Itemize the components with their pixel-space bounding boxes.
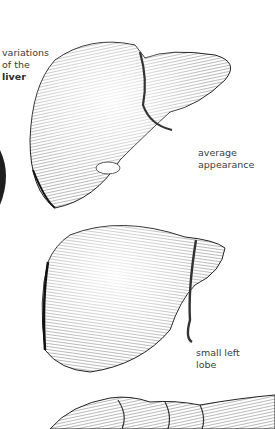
caption-line: lobe [196, 359, 240, 371]
caption-line: average [198, 147, 254, 159]
caption-average-appearance: average appearance [198, 147, 254, 171]
partial-shape-left [0, 150, 6, 205]
liver-third-variant [50, 395, 275, 429]
liver-average [30, 42, 231, 208]
caption-line: appearance [198, 159, 254, 171]
caption-line: small left [196, 347, 240, 359]
caption-small-left-lobe: small left lobe [196, 347, 240, 371]
